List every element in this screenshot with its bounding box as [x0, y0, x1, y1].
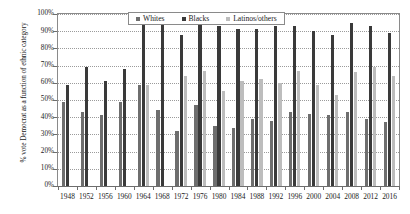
- bar-blacks-2004: [331, 35, 334, 186]
- legend-swatch-icon-blacks: [182, 17, 186, 21]
- x-tick-mark: [323, 186, 324, 190]
- x-tick-mark: [342, 186, 343, 190]
- bar-whites-1968: [156, 110, 159, 186]
- legend-item-latinos[interactable]: Latinos/others: [226, 15, 276, 23]
- bars-layer: [58, 14, 399, 186]
- bar-whites-1972: [175, 131, 178, 186]
- bar-blacks-2016: [388, 33, 391, 186]
- legend-item-blacks[interactable]: Blacks: [182, 15, 210, 23]
- bar-group: [323, 14, 342, 186]
- bar-blacks-1980: [217, 26, 220, 186]
- bar-whites-1980: [213, 126, 216, 186]
- bar-blacks-1992: [274, 26, 277, 186]
- bar-blacks-1956: [104, 81, 107, 186]
- bar-group: [210, 14, 229, 186]
- bar-whites-1992: [270, 121, 273, 186]
- bar-group: [77, 14, 96, 186]
- x-tick-mark: [96, 186, 97, 190]
- bar-group: [266, 14, 285, 186]
- y-tick-label: 20%: [14, 148, 54, 155]
- x-tick-mark: [153, 186, 154, 190]
- bar-blacks-1968: [161, 19, 164, 186]
- bar-latinos-others-1964: [146, 85, 149, 186]
- bar-blacks-1988: [255, 29, 258, 186]
- bar-whites-1956: [100, 115, 103, 186]
- y-tick-label: 60%: [14, 79, 54, 86]
- bar-group: [380, 14, 399, 186]
- y-tick-label: 10%: [14, 165, 54, 172]
- x-tick-mark: [229, 186, 230, 190]
- x-tick-mark: [115, 186, 116, 190]
- bar-blacks-1948: [66, 85, 69, 186]
- bar-whites-2016: [384, 122, 387, 186]
- legend: WhitesBlacksLatinos/others: [128, 12, 285, 25]
- bar-whites-1976: [194, 105, 197, 186]
- bar-whites-1948: [62, 102, 65, 186]
- bar-latinos-others-1996: [297, 71, 300, 186]
- x-tick-mark: [380, 186, 381, 190]
- bar-latinos-others-1976: [203, 71, 206, 186]
- bar-blacks-1960: [123, 69, 126, 186]
- bar-whites-1996: [289, 112, 292, 186]
- legend-swatch-icon-whites: [136, 17, 140, 21]
- bar-group: [304, 14, 323, 186]
- bar-group: [229, 14, 248, 186]
- bar-blacks-2012: [369, 26, 372, 186]
- bar-whites-1952: [81, 112, 84, 186]
- bar-blacks-2008: [350, 23, 353, 186]
- bar-latinos-others-2016: [392, 76, 395, 186]
- bar-latinos-others-2008: [354, 72, 357, 186]
- x-tick-mark: [266, 186, 267, 190]
- x-tick-mark: [304, 186, 305, 190]
- x-tick-mark: [134, 186, 135, 190]
- x-tick-mark: [191, 186, 192, 190]
- bar-blacks-1976: [198, 23, 201, 186]
- x-tick-label-2016: 2016: [379, 193, 401, 201]
- y-tick-mark: [53, 83, 57, 84]
- x-tick-mark: [77, 186, 78, 190]
- bar-group: [361, 14, 380, 186]
- y-tick-label: 70%: [14, 62, 54, 69]
- y-tick-mark: [53, 117, 57, 118]
- y-tick-label: 30%: [14, 131, 54, 138]
- bar-group: [191, 14, 210, 186]
- bar-chart: % vote Democrat as a function of ethnic …: [0, 0, 410, 214]
- y-tick-mark: [53, 152, 57, 153]
- bar-group: [58, 14, 77, 186]
- y-tick-mark: [53, 48, 57, 49]
- y-tick-label: 0%: [14, 182, 54, 189]
- y-tick-label: 40%: [14, 114, 54, 121]
- bar-whites-2008: [346, 112, 349, 186]
- bar-whites-1984: [232, 128, 235, 186]
- bar-blacks-1996: [293, 26, 296, 186]
- bar-latinos-others-1984: [240, 81, 243, 186]
- bar-latinos-others-1980: [222, 91, 225, 186]
- bar-latinos-others-1988: [259, 79, 262, 186]
- bar-latinos-others-2012: [373, 67, 376, 186]
- x-tick-mark: [247, 186, 248, 190]
- y-tick-mark: [53, 134, 57, 135]
- bar-latinos-others-2000: [316, 85, 319, 186]
- bar-group: [134, 14, 153, 186]
- bar-group: [342, 14, 361, 186]
- bar-blacks-1964: [142, 24, 145, 186]
- bar-blacks-1972: [180, 35, 183, 186]
- legend-label-whites: Whites: [143, 15, 165, 23]
- bar-whites-2000: [308, 114, 311, 186]
- x-tick-mark: [399, 186, 400, 190]
- bar-whites-1964: [138, 85, 141, 186]
- x-tick-mark: [172, 186, 173, 190]
- legend-item-whites[interactable]: Whites: [136, 15, 165, 23]
- bar-whites-1988: [251, 119, 254, 186]
- bar-group: [172, 14, 191, 186]
- y-tick-label: 80%: [14, 45, 54, 52]
- bar-whites-2004: [327, 115, 330, 186]
- y-tick-label: 50%: [14, 96, 54, 103]
- legend-label-latinos: Latinos/others: [233, 15, 276, 23]
- legend-swatch-icon-latinos: [226, 17, 230, 21]
- bar-whites-2012: [365, 119, 368, 186]
- bar-blacks-1952: [85, 67, 88, 186]
- x-tick-mark: [210, 186, 211, 190]
- y-tick-mark: [53, 100, 57, 101]
- bar-group: [153, 14, 172, 186]
